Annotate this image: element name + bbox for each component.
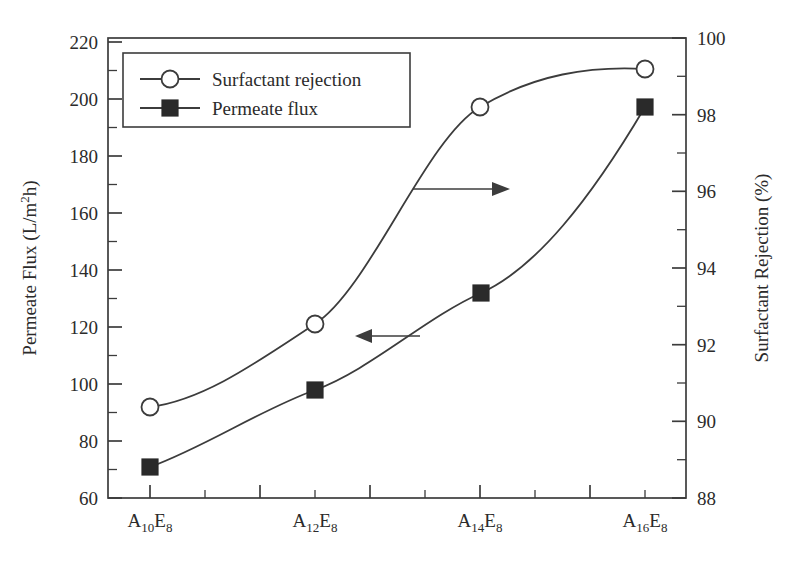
legend-label: Surfactant rejection xyxy=(212,69,362,90)
left-tick-label: 220 xyxy=(70,32,99,53)
data-point-marker xyxy=(472,99,489,116)
data-point-marker xyxy=(307,316,324,333)
legend-item-permeate-flux[interactable]: Permeate flux xyxy=(140,98,319,119)
left-tick-label: 200 xyxy=(70,89,99,110)
data-point-marker xyxy=(637,61,654,78)
open-circle-icon xyxy=(162,71,179,88)
filled-square-icon xyxy=(162,100,178,116)
data-point-marker xyxy=(637,99,653,115)
line-chart: 60 80 100 120 140 160 180 200 220 88 90 … xyxy=(0,0,799,566)
data-point-marker xyxy=(307,382,323,398)
left-tick-label: 180 xyxy=(70,146,99,167)
right-tick-label: 100 xyxy=(697,28,726,49)
left-tick-label: 80 xyxy=(79,431,98,452)
right-tick-label: 92 xyxy=(697,335,716,356)
left-tick-label: 120 xyxy=(70,317,99,338)
right-tick-label: 88 xyxy=(697,488,716,509)
left-tick-label: 160 xyxy=(70,203,99,224)
legend-item-surfactant-rejection[interactable]: Surfactant rejection xyxy=(140,69,362,90)
legend-label: Permeate flux xyxy=(212,98,319,119)
right-tick-label: 98 xyxy=(697,105,716,126)
right-tick-label: 96 xyxy=(697,181,716,202)
chart-legend: Surfactant rejection Permeate flux xyxy=(123,53,410,127)
right-tick-label: 90 xyxy=(697,411,716,432)
chart-figure: 60 80 100 120 140 160 180 200 220 88 90 … xyxy=(0,0,799,566)
right-axis-title: Surfactant Rejection (%) xyxy=(751,174,773,363)
left-tick-label: 140 xyxy=(70,260,99,281)
left-tick-label: 60 xyxy=(79,488,98,509)
data-point-marker xyxy=(142,459,158,475)
left-tick-label: 100 xyxy=(70,374,99,395)
left-axis-title: Permeate Flux (L/m2h) xyxy=(17,180,41,355)
data-point-marker xyxy=(142,399,159,416)
right-tick-label: 94 xyxy=(697,258,717,279)
data-point-marker xyxy=(473,285,489,301)
